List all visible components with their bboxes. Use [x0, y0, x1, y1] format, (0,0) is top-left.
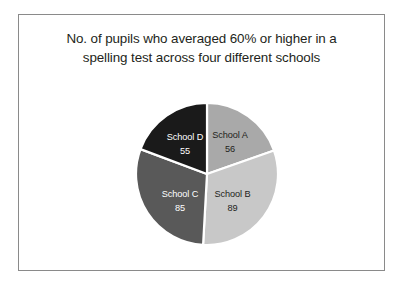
pie-slice-label-school-d: School D	[167, 132, 204, 142]
slide-frame: No. of pupils who averaged 60% or higher…	[18, 14, 385, 271]
pie-chart[interactable]: School A56School B89School C85School D55	[135, 102, 279, 246]
pie-slice-label-school-b: School B	[215, 189, 251, 199]
pie-slice-value-school-c: 85	[175, 203, 185, 213]
chart-title: No. of pupils who averaged 60% or higher…	[19, 29, 384, 67]
pie-slice-label-school-c: School C	[162, 189, 199, 199]
pie-chart-svg: School A56School B89School C85School D55	[135, 102, 279, 246]
pie-slice-value-school-a: 56	[225, 144, 235, 154]
pie-slice-value-school-d: 55	[180, 146, 190, 156]
pie-slice-value-school-b: 89	[227, 203, 237, 213]
pie-slice-label-school-a: School A	[212, 130, 248, 140]
pie-slice-group	[136, 103, 278, 245]
